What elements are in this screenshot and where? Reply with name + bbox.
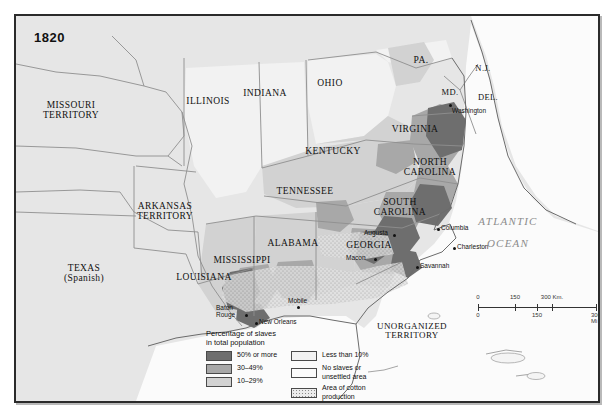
city-label-mobile: Mobile [288, 297, 307, 304]
legend-label: 50% or more [237, 351, 277, 360]
region-label-louisiana: LOUISIANA [176, 273, 231, 283]
legend-item-30-49-: 30–49% [206, 364, 277, 374]
city-marker-macon [374, 258, 377, 261]
city-marker-augusta [393, 234, 396, 237]
legend-swatch-cno [291, 368, 317, 378]
city-marker-charleston [453, 247, 456, 250]
legend-item-50-or-more: 50% or more [206, 351, 277, 361]
atlantic-ocean-label: ATLANTIC OCEAN [478, 216, 537, 249]
legend-item-area-of-cotton: Area of cottonproduction [291, 384, 368, 402]
region-label-indiana: INDIANA [243, 89, 286, 99]
region-label-delaware: DEL. [478, 93, 498, 102]
region-label-missouri-territory: MISSOURITERRITORY [43, 101, 99, 121]
region-label-alabama: ALABAMA [268, 239, 319, 249]
legend-title: Percentage of slaves in total population [206, 329, 416, 348]
city-marker-baton-rouge [245, 314, 248, 317]
region-label-ohio: OHIO [317, 79, 342, 89]
region-label-maryland: MD. [441, 88, 458, 97]
legend-column-right: Less than 10%No slaves orunsettled areaA… [291, 351, 368, 402]
legend-swatch-c10 [206, 377, 232, 387]
legend-swatch-ccot [291, 388, 317, 398]
region-label-new-jersey: N.J. [475, 64, 490, 73]
region-label-tennessee: TENNESSEE [277, 187, 334, 197]
region-label-texas: TEXAS(Spanish) [64, 264, 104, 284]
map-frame: 1820 MISSOURITERRITORYILLINOISINDIANAOHI… [14, 14, 600, 403]
region-label-virginia: VIRGINIA [392, 125, 438, 135]
legend-item-10-29-: 10–29% [206, 377, 277, 387]
map-figure: 1820 MISSOURITERRITORYILLINOISINDIANAOHI… [0, 0, 614, 413]
scale-tick-km_ticks-1: 150 [510, 294, 520, 300]
legend-swatch-c30 [206, 364, 232, 374]
region-label-pennsylvania: PA. [414, 56, 429, 66]
city-label-macon: Macon [346, 254, 366, 261]
scale-tick-km_ticks-2: 300 Km. [541, 294, 563, 300]
legend: Percentage of slaves in total population… [206, 329, 416, 402]
scale-tick-mi_ticks-2: 300 Mi [591, 312, 600, 324]
region-label-georgia: GEORGIA [346, 241, 392, 251]
legend-label: Less than 10% [322, 351, 368, 360]
legend-swatch-clt [291, 351, 317, 361]
legend-column-left: 50% or more30–49%10–29% [206, 351, 277, 402]
region-label-north-carolina: NORTHCAROLINA [404, 158, 456, 178]
scale-tick-mi_ticks-0: 0 [476, 312, 479, 318]
legend-label: Area of cottonproduction [322, 384, 366, 402]
city-marker-new-orleans [255, 322, 258, 325]
scale-mi-ticks: 0150300 Mi [478, 312, 596, 321]
region-label-illinois: ILLINOIS [186, 97, 229, 107]
legend-label: No slaves orunsettled area [322, 364, 366, 382]
city-label-savannah: Savannah [420, 262, 449, 269]
region-label-arkansas-territory: ARKANSASTERRITORY [137, 202, 193, 222]
scale-tick-km_ticks-0: 0 [476, 294, 479, 300]
scale-tick-mi_ticks-1: 150 [532, 312, 542, 318]
legend-item-no-slaves-or: No slaves orunsettled area [291, 364, 368, 382]
city-label-baton-rouge: BatonRouge [216, 304, 235, 318]
legend-swatch-c50 [206, 351, 232, 361]
city-marker-columbia [437, 228, 440, 231]
legend-item-less-than-10-: Less than 10% [291, 351, 368, 361]
city-marker-mobile [297, 306, 300, 309]
city-label-washington: Washington [452, 107, 486, 114]
city-marker-savannah [416, 266, 419, 269]
region-label-south-carolina: SOUTHCAROLINA [374, 198, 426, 218]
city-label-augusta: Augusta [364, 229, 388, 236]
scale-km-ticks: 0150300 Km. [478, 294, 596, 303]
region-label-kentucky: KENTUCKY [305, 147, 360, 157]
scale-bar-line [478, 304, 596, 311]
legend-label: 30–49% [237, 364, 263, 373]
city-label-new-orleans: New Orleans [259, 318, 297, 325]
region-label-mississippi: MISSISSIPPI [213, 256, 270, 266]
scale-bar: 0150300 Km. 0150300 Mi [478, 294, 596, 321]
map-year-title: 1820 [34, 30, 65, 45]
legend-label: 10–29% [237, 377, 263, 386]
city-label-columbia: Columbia [441, 224, 468, 231]
